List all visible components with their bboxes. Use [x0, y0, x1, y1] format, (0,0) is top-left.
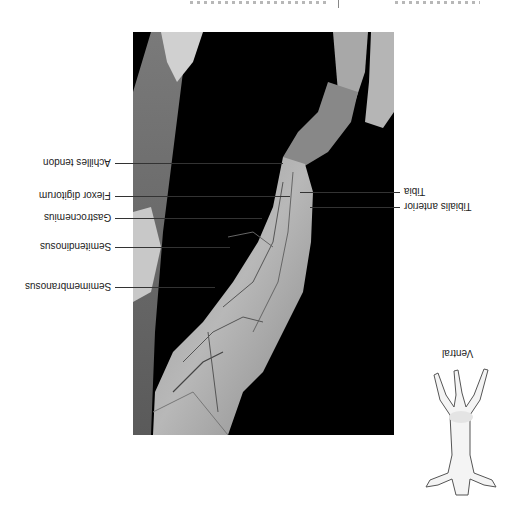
label-semitendinosus: Semitendinosus [40, 241, 111, 252]
leader-tibia [300, 192, 400, 193]
leader-semitendinosus [115, 247, 230, 248]
leader-tibialis-anterior [310, 207, 400, 208]
leader-flexor-digitorum [115, 196, 290, 197]
leader-gastrocnemius [115, 218, 262, 219]
leader-achilles-tendon [115, 163, 283, 164]
label-tibialis-anterior: Tibialis anterior [404, 201, 471, 212]
limb-illustration [133, 32, 394, 435]
header-fragment-right [395, 1, 480, 4]
orientation-thumbnail: Ventral [408, 330, 509, 505]
cat-outline-icon [408, 355, 509, 505]
leader-semimembranosus [115, 287, 215, 288]
label-achilles-tendon: Achilles tendon [43, 157, 111, 168]
label-gastrocnemius: Gastrocnemius [44, 212, 111, 223]
header-separator [338, 0, 339, 8]
header-fragment-left [190, 1, 330, 4]
label-tibia: Tibia [404, 186, 425, 197]
dissection-photo [133, 32, 394, 435]
label-semimembranosus: Semimembranosus [25, 281, 111, 292]
label-flexor-digitorum: Flexor digitorum [39, 190, 111, 201]
